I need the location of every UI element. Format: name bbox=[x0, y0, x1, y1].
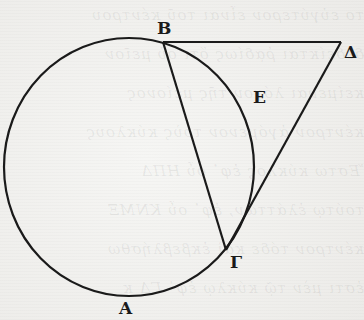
label-b: B bbox=[157, 20, 171, 37]
circle bbox=[4, 38, 254, 296]
geometry-figure bbox=[0, 0, 364, 320]
segment-b-gamma bbox=[163, 42, 226, 250]
label-a: A bbox=[119, 300, 132, 317]
label-gamma: Γ bbox=[230, 254, 242, 271]
label-delta: Δ bbox=[344, 44, 357, 61]
label-e: E bbox=[253, 89, 266, 106]
segment-delta-gamma bbox=[226, 42, 341, 250]
